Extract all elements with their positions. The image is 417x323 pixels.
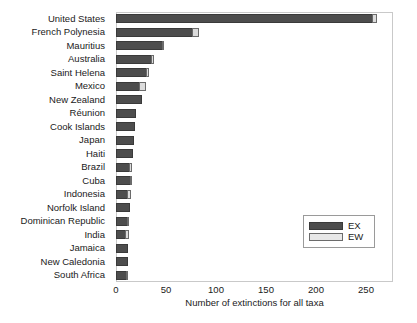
legend-entry-ex[interactable]: EX [309, 220, 369, 231]
y-axis-label: United States [0, 12, 110, 26]
y-axis-label: New Zealand [0, 93, 110, 107]
bar-row [116, 201, 393, 215]
x-axis-tick-label: 250 [358, 284, 374, 296]
bar-segment-ex [116, 176, 131, 185]
stacked-bar [116, 176, 132, 185]
y-axis-label: Saint Helena [0, 66, 110, 80]
y-axis-label: India [0, 228, 110, 242]
y-axis-label: Haiti [0, 147, 110, 161]
bar-segment-ex [116, 28, 193, 37]
stacked-bar [116, 41, 164, 50]
y-axis-label-text: New Zealand [49, 95, 105, 105]
stacked-bar [116, 230, 129, 239]
bar-segment-ex [116, 109, 136, 118]
bar-row [116, 120, 393, 134]
bar-segment-ew [129, 163, 132, 172]
x-axis-tick-label: 50 [161, 284, 172, 296]
y-axis-label: Indonesia [0, 188, 110, 202]
y-axis-label: Brazil [0, 161, 110, 175]
y-axis-label-text: India [84, 230, 105, 240]
legend-entry-ew[interactable]: EW [309, 232, 369, 243]
stacked-bar [116, 163, 132, 172]
bar-row [116, 93, 393, 107]
bar-row [116, 269, 393, 283]
y-axis-label-text: Mexico [75, 81, 105, 91]
x-axis-title: Number of extinctions for all taxa [116, 297, 393, 308]
y-axis-label-text: Australia [68, 54, 105, 64]
extinctions-bar-chart: United StatesFrench PolynesiaMauritiusAu… [0, 0, 417, 323]
bar-segment-ex [116, 82, 140, 91]
y-axis-category-labels: United StatesFrench PolynesiaMauritiusAu… [0, 12, 110, 282]
bar-segment-ex [116, 136, 134, 145]
bar-segment-ew [192, 28, 199, 37]
bar-row [116, 174, 393, 188]
bar-segment-ex [116, 257, 128, 266]
y-axis-label-text: Saint Helena [51, 68, 105, 78]
stacked-bar [116, 55, 154, 64]
y-axis-label-text: French Polynesia [32, 27, 105, 37]
y-axis-label-text: Dominican Republic [21, 216, 105, 226]
y-axis-label-text: Cuba [82, 176, 105, 186]
y-axis-label: New Caledonia [0, 255, 110, 269]
bar-segment-ew [372, 14, 377, 23]
bar-segment-ew [146, 68, 149, 77]
bar-row [116, 134, 393, 148]
stacked-bar [116, 28, 199, 37]
legend-label: EW [348, 232, 363, 242]
y-axis-label-text: Cook Islands [50, 122, 105, 132]
y-axis-label: Cuba [0, 174, 110, 188]
bar-segment-ex [116, 244, 128, 253]
y-axis-label-text: South Africa [54, 270, 105, 280]
stacked-bar [116, 190, 131, 199]
y-axis-label-text: Jamaica [70, 243, 105, 253]
stacked-bar [116, 257, 128, 266]
stacked-bar [116, 122, 135, 131]
bar-row [116, 12, 393, 26]
y-axis-label: Mexico [0, 80, 110, 94]
y-axis-label: Dominican Republic [0, 215, 110, 229]
y-axis-label: French Polynesia [0, 26, 110, 40]
bar-row [116, 66, 393, 80]
legend-swatch-ex-icon [309, 222, 343, 230]
chart-legend: EXEW [303, 215, 375, 248]
stacked-bar [116, 217, 129, 226]
legend-swatch-ew-icon [309, 233, 343, 241]
y-axis-label-text: Mauritius [66, 41, 105, 51]
bar-segment-ew [126, 271, 128, 280]
y-axis-label-text: Réunion [70, 108, 105, 118]
stacked-bar [116, 68, 149, 77]
y-axis-label-text: United States [48, 14, 105, 24]
stacked-bar [116, 244, 128, 253]
stacked-bar [116, 271, 128, 280]
y-axis-label: Japan [0, 134, 110, 148]
bar-row [116, 53, 393, 67]
stacked-bar [116, 203, 130, 212]
bar-segment-ex [116, 203, 130, 212]
legend-label: EX [348, 221, 361, 231]
y-axis-label-text: Indonesia [64, 189, 105, 199]
bar-segment-ew [127, 190, 131, 199]
y-axis-label: Réunion [0, 107, 110, 121]
bar-row [116, 147, 393, 161]
bar-segment-ew [151, 55, 154, 64]
bar-segment-ew [127, 217, 129, 226]
stacked-bar [116, 109, 136, 118]
y-axis-label-text: Haiti [86, 149, 105, 159]
bar-row [116, 39, 393, 53]
y-axis-label-text: Japan [79, 135, 105, 145]
y-axis-label: Cook Islands [0, 120, 110, 134]
stacked-bar [116, 136, 134, 145]
bar-row [116, 26, 393, 40]
bar-segment-ex [116, 55, 152, 64]
x-axis-tick-label: 150 [258, 284, 274, 296]
y-axis-label-text: Brazil [81, 162, 105, 172]
bar-segment-ew [125, 230, 129, 239]
bar-segment-ex [116, 149, 133, 158]
x-axis-tick-label: 200 [308, 284, 324, 296]
x-axis-ticks: 050100150200250 [116, 284, 393, 298]
bar-segment-ew [139, 82, 146, 91]
bar-segment-ex [116, 95, 142, 104]
y-axis-label-text: Norfolk Island [47, 203, 105, 213]
y-axis-label: Mauritius [0, 39, 110, 53]
bar-segment-ex [116, 122, 135, 131]
